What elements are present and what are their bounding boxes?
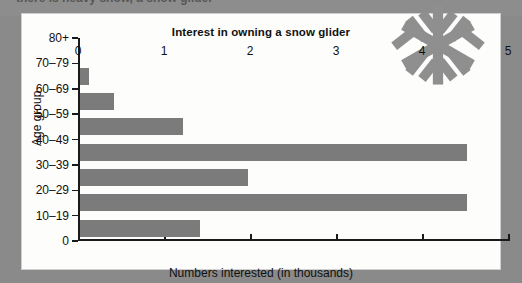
x-axis-title: Numbers interested (in thousands): [22, 266, 500, 280]
y-axis-tick-label: 40–49: [36, 133, 69, 147]
bar: [80, 93, 114, 110]
bar: [80, 194, 467, 211]
bar: [80, 144, 467, 161]
y-axis-tick-label: 60–69: [36, 82, 69, 96]
x-axis-tick: [422, 234, 424, 241]
x-axis-tick-label: 4: [419, 44, 426, 58]
y-axis-tick: [72, 63, 78, 65]
bar: [80, 68, 89, 85]
x-axis-tick-label: 2: [247, 44, 254, 58]
bar: [80, 220, 200, 237]
y-axis-tick-label: 70–79: [36, 56, 69, 70]
y-axis-tick-label: 0: [62, 234, 69, 248]
y-axis-tick-label: 50–59: [36, 107, 69, 121]
y-axis-tick: [72, 139, 78, 141]
x-axis-tick-label: 5: [505, 44, 512, 58]
x-axis-tick: [250, 234, 252, 241]
y-axis-tick: [72, 215, 78, 217]
y-axis-tick: [72, 88, 78, 90]
plot-area: 010–1920–2930–3940–4950–5960–6970–7980+ …: [78, 38, 508, 241]
x-axis-tick-label: 0: [75, 44, 82, 58]
x-axis-line: [78, 239, 508, 241]
chart-card: Interest in owning a snow glider Age gro…: [22, 14, 500, 269]
y-axis-tick-label: 30–39: [36, 158, 69, 172]
y-axis-tick-label: 20–29: [36, 183, 69, 197]
bar: [80, 118, 183, 135]
y-axis-tick-label: 10–19: [36, 209, 69, 223]
y-axis-tick: [72, 37, 78, 39]
y-axis-tick: [72, 164, 78, 166]
y-axis-tick-label: 80+: [49, 31, 69, 45]
x-axis-tick: [336, 234, 338, 241]
x-axis-tick: [508, 234, 510, 241]
x-axis-tick-label: 3: [333, 44, 340, 58]
cutoff-headline-text: there is heavy snow, a snow glider: [16, 0, 213, 5]
y-axis-tick: [72, 113, 78, 115]
y-axis-tick: [72, 190, 78, 192]
x-axis-tick-label: 1: [161, 44, 168, 58]
bar: [80, 169, 248, 186]
chart-title: Interest in owning a snow glider: [22, 26, 500, 38]
